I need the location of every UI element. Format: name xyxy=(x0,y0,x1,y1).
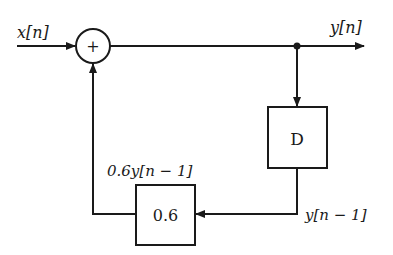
input-label: x[n] xyxy=(17,23,50,42)
output-label: y[n] xyxy=(329,18,363,37)
gain-label: 0.6 xyxy=(153,206,178,225)
delay-label: D xyxy=(290,129,304,149)
adder-symbol: + xyxy=(86,37,99,56)
adder-node: + xyxy=(76,29,110,63)
scaled-signal-label: 0.6y[n − 1] xyxy=(107,162,192,180)
feedback-arrow xyxy=(93,64,136,214)
delayed-signal-label: y[n − 1] xyxy=(304,206,367,224)
delay-block: D xyxy=(268,107,327,168)
block-diagram: + D 0.6 x[n] y[n] y[n − 1] 0.6y[n − 1] xyxy=(0,0,393,255)
gain-block: 0.6 xyxy=(136,185,195,245)
delay-to-gain-arrow xyxy=(196,168,297,214)
